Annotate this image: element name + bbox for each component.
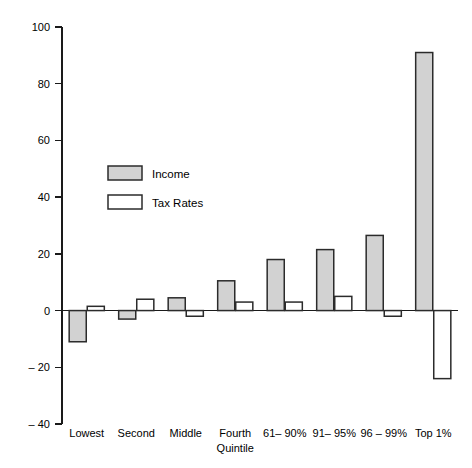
- bar-income: [168, 298, 185, 311]
- bars-layer: [69, 53, 451, 379]
- y-axis-tick-label: 60: [38, 134, 50, 146]
- x-axis-category-label: Second: [118, 427, 155, 439]
- y-axis-tick-label: 40: [38, 191, 50, 203]
- x-axis-category-label: 96 – 99%: [361, 427, 408, 439]
- x-axis-category-label: Lowest: [69, 427, 104, 439]
- legend-swatch-tax-rates: [108, 195, 142, 209]
- bar-tax-rates: [87, 306, 104, 310]
- chart-legend: Income Tax Rates: [108, 166, 203, 209]
- bar-income: [218, 281, 235, 311]
- y-axis-tick-label: 80: [38, 78, 50, 90]
- x-axis-title: Quintile: [217, 442, 254, 454]
- x-axis-category-label: 61– 90%: [263, 427, 307, 439]
- bar-income: [267, 260, 284, 311]
- bar-tax-rates: [285, 302, 302, 311]
- x-axis-category-label: Fourth: [219, 427, 251, 439]
- x-axis-category-label: Middle: [170, 427, 202, 439]
- bar-income: [69, 311, 86, 342]
- x-axis-category-label: 91– 95%: [313, 427, 357, 439]
- bar-income: [366, 235, 383, 310]
- bar-income: [416, 53, 433, 311]
- bar-tax-rates: [335, 296, 352, 310]
- legend-swatch-income: [108, 166, 142, 180]
- y-axis-tick-label: – 20: [29, 361, 50, 373]
- chart-container: 100806040200– 20– 40 LowestSecondMiddleF…: [0, 0, 472, 468]
- bar-tax-rates: [236, 302, 253, 311]
- legend-label-income: Income: [152, 168, 190, 180]
- bar-tax-rates: [186, 311, 203, 317]
- y-axis-tick-label: – 40: [29, 418, 50, 430]
- y-axis-tick-label: 0: [44, 305, 50, 317]
- legend-label-tax-rates: Tax Rates: [152, 197, 203, 209]
- y-axis-tick-label: 20: [38, 248, 50, 260]
- x-axis-category-labels: LowestSecondMiddleFourth61– 90%91– 95%96…: [69, 427, 451, 439]
- bar-tax-rates: [137, 299, 154, 310]
- bar-chart: 100806040200– 20– 40 LowestSecondMiddleF…: [0, 0, 472, 468]
- bar-income: [119, 311, 136, 320]
- y-axis-tick-group: 100806040200– 20– 40: [29, 21, 62, 430]
- bar-income: [317, 250, 334, 311]
- bar-tax-rates: [384, 311, 401, 317]
- x-axis-category-label: Top 1%: [415, 427, 452, 439]
- y-axis-tick-label: 100: [32, 21, 50, 33]
- bar-tax-rates: [434, 311, 451, 379]
